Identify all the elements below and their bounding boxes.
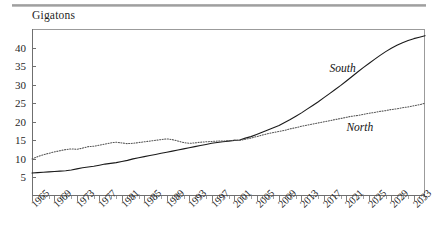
y-axis-tick-label: 40 xyxy=(0,42,26,54)
top-rule-divider xyxy=(12,4,426,7)
line-south xyxy=(32,36,425,173)
y-axis-tick-label: 30 xyxy=(0,79,26,91)
y-axis-tick-label: 35 xyxy=(0,60,26,72)
chart-figure: Gigatons 510152025303540 SouthNorth 1965… xyxy=(0,0,439,238)
plot-area: SouthNorth xyxy=(32,29,425,196)
y-axis-tick-label: 15 xyxy=(0,134,26,146)
y-axis-tick-label: 10 xyxy=(0,153,26,165)
y-axis-tick-label: 25 xyxy=(0,97,26,109)
y-axis-caption: Gigatons xyxy=(32,9,75,21)
series-label-north: North xyxy=(346,121,373,133)
y-axis-tick-label: 5 xyxy=(0,171,26,183)
y-axis-tick-label: 20 xyxy=(0,116,26,128)
series-lines xyxy=(32,29,425,196)
series-label-south: South xyxy=(330,62,356,74)
